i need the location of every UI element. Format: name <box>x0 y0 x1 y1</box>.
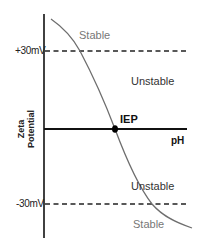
iep-label: IEP <box>120 114 138 125</box>
zeta-potential-diagram: +30mV -30mV Zeta Potential Stable Unstab… <box>0 0 208 250</box>
unstable-top-label: Unstable <box>131 76 174 87</box>
y-axis-label-line2: Potential <box>26 99 36 159</box>
unstable-bottom-label: Unstable <box>131 181 174 192</box>
iep-point-marker <box>112 125 118 133</box>
tick-label-plus-30mv: +30mV <box>15 46 45 56</box>
tick-label-minus-30mv: -30mV <box>16 199 44 209</box>
y-axis-label-line1: Zeta <box>16 99 26 159</box>
stable-top-label: Stable <box>79 30 110 41</box>
stable-bottom-label: Stable <box>133 219 164 230</box>
y-axis-label: Zeta Potential <box>16 99 36 159</box>
ph-axis-label: pH <box>171 136 184 146</box>
